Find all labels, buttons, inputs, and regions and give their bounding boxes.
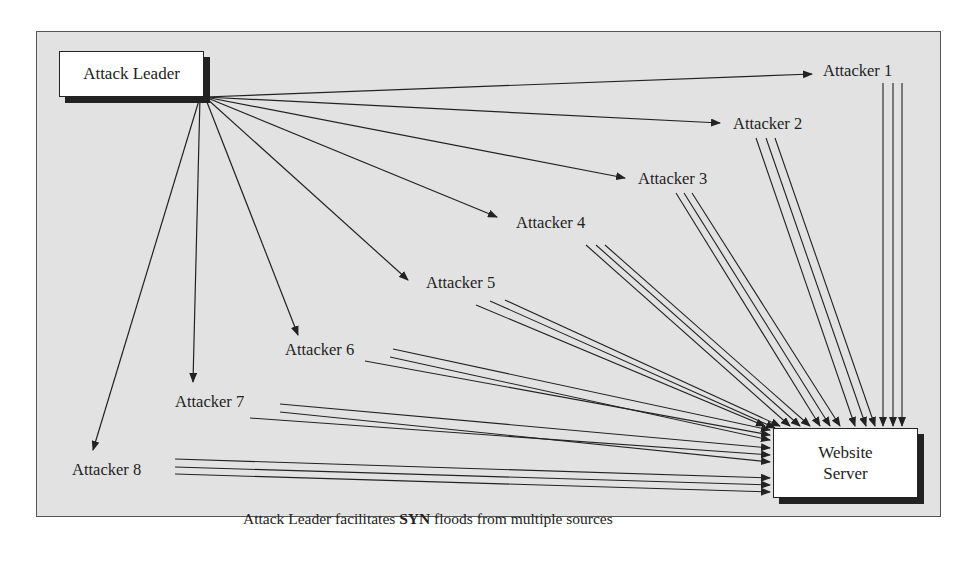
caption-syn-bold: SYN <box>399 510 430 527</box>
attacker-2-label: Attacker 2 <box>733 114 802 134</box>
server-label-line2: Server <box>823 463 867 484</box>
website-server-box: Website Server <box>773 428 918 498</box>
server-label-line1: Website <box>818 442 872 463</box>
caption-text-before: Attack Leader facilitates <box>243 510 399 527</box>
attacker-3-label: Attacker 3 <box>638 169 707 189</box>
attacker-6-label: Attacker 6 <box>285 340 354 360</box>
attacker-8-label: Attacker 8 <box>72 460 141 480</box>
diagram-caption: Attack Leader facilitates SYN floods fro… <box>243 510 613 528</box>
attacker-5-label: Attacker 5 <box>426 273 495 293</box>
attack-leader-box: Attack Leader <box>59 51 204 97</box>
attacker-7-label: Attacker 7 <box>175 392 244 412</box>
attack-leader-label: Attack Leader <box>83 63 180 84</box>
caption-text-after: floods from multiple sources <box>430 510 613 527</box>
attacker-4-label: Attacker 4 <box>516 213 585 233</box>
attacker-1-label: Attacker 1 <box>823 61 892 81</box>
